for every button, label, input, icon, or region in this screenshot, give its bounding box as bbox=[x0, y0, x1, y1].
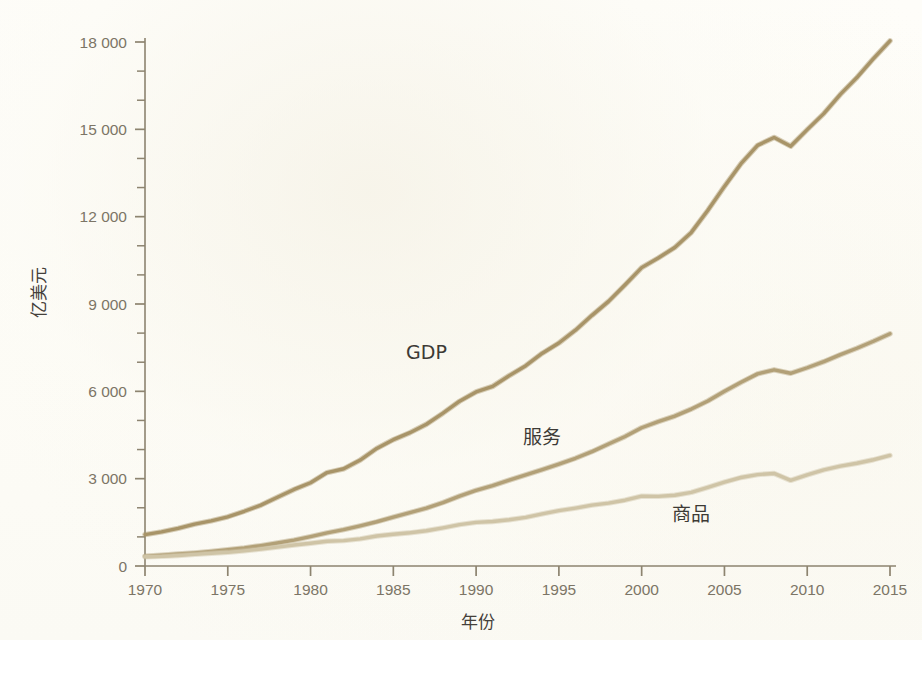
y-axis-title: 亿美元 bbox=[29, 267, 49, 318]
series-line-shadow bbox=[145, 41, 890, 535]
axis-spine bbox=[145, 38, 896, 566]
line-chart: 03 0006 0009 00012 00015 00018 000197019… bbox=[0, 0, 922, 673]
y-tick-label: 3 000 bbox=[88, 470, 127, 487]
x-axis-title: 年份 bbox=[461, 612, 495, 632]
x-tick-label: 2015 bbox=[873, 581, 907, 598]
series-label: GDP bbox=[406, 341, 447, 363]
x-tick-label: 2005 bbox=[707, 581, 741, 598]
x-tick-label: 2010 bbox=[790, 581, 825, 598]
axis-ticks bbox=[135, 42, 890, 576]
x-tick-label: 1985 bbox=[376, 581, 410, 598]
x-tick-label: 1990 bbox=[459, 581, 494, 598]
series-label: 商品 bbox=[672, 503, 710, 525]
series-line bbox=[145, 334, 890, 556]
y-tick-label: 15 000 bbox=[80, 121, 128, 138]
y-tick-label: 18 000 bbox=[80, 34, 128, 51]
series-line-shadow bbox=[145, 334, 890, 556]
y-tick-label: 6 000 bbox=[88, 383, 127, 400]
series-line bbox=[145, 41, 890, 535]
y-tick-label: 9 000 bbox=[88, 296, 127, 313]
y-tick-label: 0 bbox=[118, 558, 127, 575]
chart-page: 03 0006 0009 00012 00015 00018 000197019… bbox=[0, 0, 922, 673]
chart-axes bbox=[145, 38, 896, 566]
x-tick-label: 1970 bbox=[128, 581, 163, 598]
x-tick-label: 2000 bbox=[624, 581, 659, 598]
y-tick-label: 12 000 bbox=[80, 208, 128, 225]
data-series bbox=[145, 41, 890, 557]
x-tick-label: 1975 bbox=[211, 581, 245, 598]
axis-tick-labels: 03 0006 0009 00012 00015 00018 000197019… bbox=[80, 34, 908, 599]
series-label: 服务 bbox=[523, 426, 561, 448]
x-tick-label: 1995 bbox=[542, 581, 576, 598]
x-tick-label: 1980 bbox=[293, 581, 328, 598]
